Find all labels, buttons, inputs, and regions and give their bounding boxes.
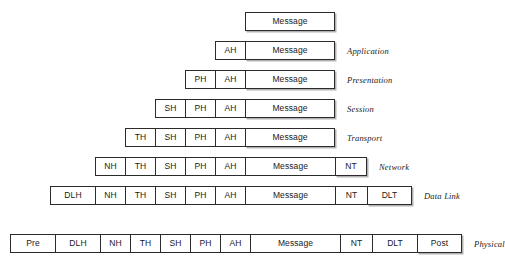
pdu-cell-ph: PH: [185, 157, 215, 176]
layer-label-data-link: Data Link: [424, 186, 460, 205]
pdu-row: PHAHMessage: [185, 70, 335, 89]
pdu-cell-message: Message: [245, 128, 335, 147]
pdu-cell-nt: NT: [340, 234, 372, 253]
pdu-cell-message: Message: [245, 70, 335, 89]
pdu-row: Message: [245, 12, 335, 31]
pdu-cell-nh: NH: [95, 186, 125, 205]
layer-label-network: Network: [379, 157, 409, 176]
pdu-cell-th: TH: [125, 157, 155, 176]
pdu-cell-dlt: DLT: [367, 186, 412, 205]
pdu-cell-sh: SH: [155, 157, 185, 176]
pdu-cell-message: Message: [245, 41, 335, 60]
pdu-row: DLHNHTHSHPHAHMessageNTDLT: [50, 186, 412, 205]
pdu-cell-ah: AH: [215, 41, 245, 60]
pdu-cell-th: TH: [125, 186, 155, 205]
pdu-cell-nh: NH: [95, 157, 125, 176]
layer-label-session: Session: [347, 99, 374, 118]
pdu-cell-ah: AH: [220, 234, 250, 253]
pdu-cell-th: TH: [125, 128, 155, 147]
pdu-cell-message: Message: [245, 99, 335, 118]
pdu-cell-message: Message: [245, 12, 335, 31]
pdu-row: AHMessage: [215, 41, 335, 60]
pdu-cell-nt: NT: [335, 157, 367, 176]
pdu-row: PreDLHNHTHSHPHAHMessageNTDLTPost: [10, 234, 462, 253]
pdu-cell-ph: PH: [185, 99, 215, 118]
pdu-cell-sh: SH: [155, 186, 185, 205]
pdu-cell-dlh: DLH: [55, 234, 100, 253]
pdu-cell-dlh: DLH: [50, 186, 95, 205]
pdu-cell-ph: PH: [190, 234, 220, 253]
pdu-cell-post: Post: [417, 234, 462, 253]
pdu-cell-sh: SH: [155, 99, 185, 118]
layer-label-application: Application: [347, 41, 389, 60]
pdu-cell-ph: PH: [185, 186, 215, 205]
pdu-cell-sh: SH: [160, 234, 190, 253]
pdu-cell-ah: AH: [215, 186, 245, 205]
pdu-cell-nh: NH: [100, 234, 130, 253]
layer-label-physical: Physical: [474, 234, 505, 253]
pdu-cell-nt: NT: [335, 186, 367, 205]
pdu-cell-ah: AH: [215, 128, 245, 147]
pdu-cell-dlt: DLT: [372, 234, 417, 253]
pdu-cell-message: Message: [245, 186, 335, 205]
layer-label-transport: Transport: [347, 128, 382, 147]
pdu-cell-message: Message: [250, 234, 340, 253]
pdu-cell-ah: AH: [215, 70, 245, 89]
layer-label-presentation: Presentation: [347, 70, 393, 89]
pdu-row: NHTHSHPHAHMessageNT: [95, 157, 367, 176]
pdu-cell-sh: SH: [155, 128, 185, 147]
pdu-cell-pre: Pre: [10, 234, 55, 253]
pdu-cell-message: Message: [245, 157, 335, 176]
pdu-cell-ph: PH: [185, 128, 215, 147]
pdu-row: SHPHAHMessage: [155, 99, 335, 118]
pdu-cell-ah: AH: [215, 99, 245, 118]
pdu-row: THSHPHAHMessage: [125, 128, 335, 147]
pdu-cell-ph: PH: [185, 70, 215, 89]
pdu-cell-ah: AH: [215, 157, 245, 176]
pdu-cell-th: TH: [130, 234, 160, 253]
